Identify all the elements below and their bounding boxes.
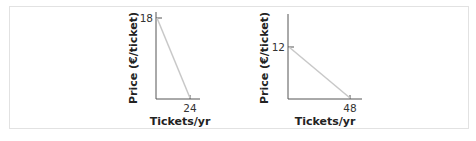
left-demand-line bbox=[157, 18, 190, 98]
demand-charts: Price (€/ticket) 18 24 Tickets/yr Price … bbox=[0, 0, 476, 141]
left-chart: Price (€/ticket) 18 24 Tickets/yr bbox=[127, 12, 211, 128]
right-demand-line bbox=[289, 47, 350, 98]
left-x-axis-label: Tickets/yr bbox=[150, 115, 211, 128]
right-x-tick-label: 48 bbox=[343, 102, 356, 114]
right-y-axis-label: Price (€/ticket) bbox=[258, 12, 271, 104]
right-x-axis-label: Tickets/yr bbox=[295, 115, 356, 128]
left-y-tick-label: 18 bbox=[140, 12, 153, 24]
left-x-tick-label: 24 bbox=[183, 102, 197, 114]
left-y-axis-label: Price (€/ticket) bbox=[127, 12, 140, 104]
right-y-tick-label: 12 bbox=[272, 41, 285, 53]
right-chart: Price (€/ticket) 12 48 Tickets/yr bbox=[258, 12, 362, 128]
